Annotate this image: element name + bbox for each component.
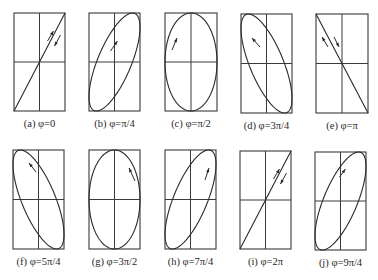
panel-b: (b) φ=π/4 [89, 13, 140, 130]
panel-c: (c) φ=π/2 [165, 13, 217, 130]
panel-label: (f) φ=5π/4 [17, 256, 62, 268]
panel-label: (h) φ=7π/4 [168, 256, 214, 268]
arrowhead-icon [322, 37, 326, 41]
arrowhead-icon [50, 31, 54, 35]
panel-d: (d) φ=3π/4 [241, 14, 292, 132]
panel-a: (a) φ=0 [14, 13, 65, 130]
panel-label: (e) φ=π [326, 120, 358, 132]
lissajous-diagram: (a) φ=0(b) φ=π/4(c) φ=π/2(d) φ=3π/4(e) φ… [0, 0, 378, 280]
panel-label: (d) φ=3π/4 [244, 120, 290, 132]
arrowhead-icon [55, 42, 58, 46]
panel-label: (c) φ=π/2 [171, 118, 211, 130]
panel-e: (e) φ=π [316, 14, 368, 132]
arrowhead-icon [276, 169, 280, 173]
panel-j: (j) φ=9π/4 [315, 152, 366, 269]
panel-label: (a) φ=0 [24, 118, 56, 130]
panel-g: (g) φ=3π/2 [89, 150, 140, 268]
arrowhead-icon [281, 180, 284, 184]
panel-label: (g) φ=3π/2 [92, 256, 138, 268]
arrowhead-icon [206, 168, 209, 172]
panel-f: (f) φ=5π/4 [13, 150, 64, 268]
panel-label: (b) φ=π/4 [94, 118, 135, 130]
arrowhead-icon [336, 43, 339, 47]
panel-i: (i) φ=2π [240, 151, 291, 268]
panel-h: (h) φ=7π/4 [165, 150, 216, 268]
arrowhead-icon [129, 168, 132, 172]
panel-label: (j) φ=9π/4 [319, 257, 363, 269]
arrowhead-icon [174, 38, 177, 42]
panel-label: (i) φ=2π [248, 256, 284, 268]
